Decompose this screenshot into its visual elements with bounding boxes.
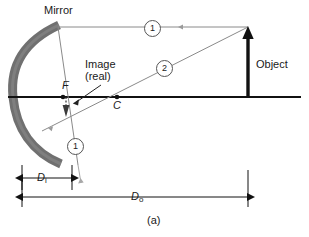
image-distance-dimension xyxy=(22,165,72,190)
mirror-label: Mirror xyxy=(44,4,73,16)
ray-two-badge: 2 xyxy=(156,60,173,77)
figure-caption: (a) xyxy=(147,214,160,226)
object-arrow xyxy=(242,26,253,96)
image-distance-subscript: i xyxy=(45,176,47,185)
object-distance-subscript: o xyxy=(139,195,143,204)
image-distance-label: Di xyxy=(37,171,47,187)
concave-mirror-arc xyxy=(13,25,61,164)
object-distance-label: Do xyxy=(131,190,143,206)
center-of-curvature-label: C xyxy=(113,99,121,111)
image-callout-arrow xyxy=(73,85,101,106)
image-distance-symbol: D xyxy=(37,171,45,183)
image-label-line1: Image xyxy=(85,58,116,70)
focal-point-dot xyxy=(61,95,66,100)
ray-one-top-badge: 1 xyxy=(144,20,161,37)
optics-figure: Mirror Image (real) F C Object 1 1 2 Di … xyxy=(0,0,309,237)
ray-two-incident xyxy=(42,27,248,131)
object-label: Object xyxy=(256,58,288,70)
object-distance-symbol: D xyxy=(131,190,139,202)
ray-one-bottom-badge: 1 xyxy=(67,138,84,155)
focal-point-label: F xyxy=(62,79,69,91)
image-label-line2: (real) xyxy=(85,70,111,82)
